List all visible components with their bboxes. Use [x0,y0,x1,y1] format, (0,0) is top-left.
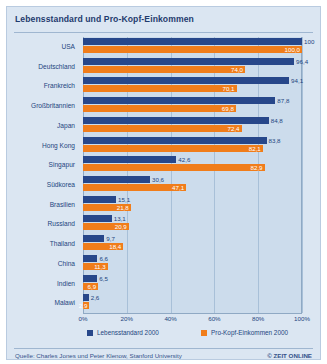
bar-pro-kopf-einkommen: 70,1 [83,85,237,92]
bar-lebensstandard: 83,8 [83,137,267,144]
bar-value-label: 13,1 [114,215,126,222]
footer: Quelle: Charles Jones und Peter Klenow, … [15,352,312,364]
bar-pro-kopf-einkommen: 47,1 [83,184,186,191]
bar-value-label: 100 [304,38,314,45]
bar-value-label: 82,1 [249,145,261,152]
category-label: Südkorea [47,181,75,188]
bar-lebensstandard: 6,5 [83,275,97,282]
bar-value-label: 11,3 [94,263,106,270]
bar-rows: USA100100,0Deutschland96,474,0Frankreich… [83,37,302,313]
bar-value-label: 15,1 [118,196,130,203]
bar-pro-kopf-einkommen: 72,4 [83,125,242,132]
bar-pro-kopf-einkommen: 2,9 [83,302,89,309]
category-label: China [58,260,75,267]
bar-value-label: 100,0 [285,46,300,53]
category-label: Japan [57,122,75,129]
bar-value-label: 6,5 [99,275,108,282]
bar-pro-kopf-einkommen: 20,9 [83,223,129,230]
bar-value-label: 74,0 [231,66,243,73]
bar-row: Thailand9,718,4 [83,234,302,254]
bar-value-label: 87,8 [277,97,289,104]
bar-row: Indien6,56,9 [83,274,302,294]
x-tick-label: 60% [208,315,220,322]
footer-divider [14,348,313,349]
credit-note: © ZEIT ONLINE [267,352,312,359]
bar-lebensstandard: 42,6 [83,156,176,163]
bar-pro-kopf-einkommen: 82,9 [83,164,265,171]
bar-lebensstandard: 100 [83,38,302,45]
category-label: Thailand [50,240,75,247]
bar-lebensstandard: 94,1 [83,77,289,84]
bar-pro-kopf-einkommen: 69,8 [83,105,236,112]
bar-pro-kopf-einkommen: 6,9 [83,283,98,290]
bar-lebensstandard: 6,6 [83,255,97,262]
bar-value-label: 42,6 [178,156,190,163]
bar-row: USA100100,0 [83,37,302,57]
chart-legend: Lebensstandard 2000Pro-Kopf-Einkommen 20… [83,329,313,341]
bar-value-label: 72,4 [228,125,240,132]
bar-row: Großbritannien87,869,8 [83,96,302,116]
bar-pro-kopf-einkommen: 82,1 [83,145,263,152]
category-label: Deutschland [38,63,75,70]
bar-value-label: 96,4 [296,58,308,65]
source-note: Quelle: Charles Jones und Peter Klenow, … [15,352,182,359]
bar-row: China6,611,3 [83,254,302,274]
legend-item[interactable]: Lebensstandard 2000 [87,329,159,336]
category-label: USA [61,43,75,50]
bar-value-label: 2,6 [91,294,100,301]
legend-item[interactable]: Pro-Kopf-Einkommen 2000 [201,329,288,336]
category-label: Russland [48,220,76,227]
bar-pro-kopf-einkommen: 21,8 [83,204,131,211]
bar-value-label: 20,9 [115,223,127,230]
bar-row: Südkorea30,647,1 [83,175,302,195]
category-label: Frankreich [44,82,75,89]
bar-value-label: 6,9 [88,283,97,290]
bar-row: Japan84,872,4 [83,116,302,136]
bar-lebensstandard: 9,7 [83,235,104,242]
x-axis-line [83,313,302,314]
category-label: Malawi [54,299,75,306]
x-tick-label: 20% [121,315,133,322]
bar-pro-kopf-einkommen: 11,3 [83,263,108,270]
bar-value-label: 18,4 [109,243,121,250]
bar-value-label: 9,7 [106,235,115,242]
bar-value-label: 82,9 [251,164,263,171]
bar-value-label: 21,8 [117,204,129,211]
x-axis-ticks: 0%20%40%60%80%100% [83,315,302,325]
bar-value-label: 69,8 [222,105,234,112]
legend-label: Lebensstandard 2000 [97,329,159,336]
bar-value-label: 83,8 [269,137,281,144]
x-tick-label: 100% [294,315,310,322]
bar-pro-kopf-einkommen: 18,4 [83,243,123,250]
x-tick-label: 40% [164,315,176,322]
bar-lebensstandard: 15,1 [83,196,116,203]
bar-lebensstandard: 2,6 [83,294,89,301]
legend-swatch-orange-icon [201,330,207,336]
bar-lebensstandard: 87,8 [83,97,275,104]
category-label: Indien [57,280,75,287]
bar-value-label: 30,6 [152,176,164,183]
x-tick-label: 80% [252,315,264,322]
bar-row: Hong Kong83,882,1 [83,136,302,156]
bar-lebensstandard: 84,8 [83,117,269,124]
page-title: Lebensstandard und Pro-Kopf-Einkommen [15,14,194,24]
bar-row: Singapur42,682,9 [83,155,302,175]
bar-value-label: 94,1 [291,77,303,84]
category-label: Brasilien [50,201,75,208]
bar-row: Deutschland96,474,0 [83,57,302,77]
bar-value-label: 6,6 [99,255,108,262]
bar-pro-kopf-einkommen: 74,0 [83,66,245,73]
legend-swatch-blue-icon [87,330,93,336]
title-divider [14,32,313,33]
x-tick-label: 0% [79,315,88,322]
bar-value-label: 2,9 [79,302,88,309]
legend-label: Pro-Kopf-Einkommen 2000 [211,329,288,336]
bar-row: Malawi2,62,9 [83,293,302,313]
category-label: Singapur [49,161,75,168]
plot-area: USA100100,0Deutschland96,474,0Frankreich… [83,37,302,313]
bar-value-label: 84,8 [271,117,283,124]
bar-value-label: 70,1 [222,85,234,92]
bar-pro-kopf-einkommen: 100,0 [83,46,302,53]
bar-lebensstandard: 13,1 [83,215,112,222]
chart-card: Lebensstandard und Pro-Kopf-Einkommen US… [6,6,321,360]
